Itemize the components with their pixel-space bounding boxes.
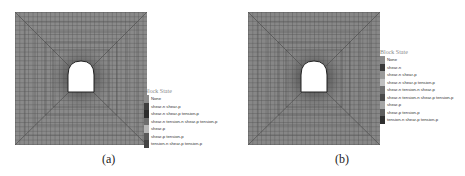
legend-title: Block State — [380, 49, 453, 55]
legend-item: tension-n shear-p tension-p — [380, 116, 453, 124]
legend-swatch — [380, 94, 385, 102]
legend-swatch — [380, 101, 385, 109]
legend-swatch — [380, 116, 385, 124]
legend-swatch — [380, 86, 385, 94]
legend-item: shear-n shear-p — [380, 71, 453, 79]
legend-swatch — [380, 56, 385, 64]
legend-item: None — [380, 56, 453, 64]
legend-item: shear-n shear-p tension-p — [380, 79, 453, 87]
caption-b: (b) — [335, 152, 349, 167]
legend-swatch — [380, 79, 385, 87]
tunnel-opening — [301, 61, 327, 92]
legend-swatch — [380, 109, 385, 117]
legend-swatch — [380, 71, 385, 79]
legend-item: shear-n — [380, 64, 453, 72]
figure-panel-b: Block State None shear-n shear-n shear-p… — [0, 0, 465, 176]
legend-item: shear-n tension-n shear-p tension-p — [380, 94, 453, 102]
legend-swatch — [380, 64, 385, 72]
legend-item: shear-n tension-n shear-p — [380, 86, 453, 94]
tunnel-mesh-graphic — [248, 12, 380, 145]
mesh-plot-b — [248, 12, 380, 145]
legend-item: shear-p tension-p — [380, 109, 453, 117]
legend-b: Block State None shear-n shear-n shear-p… — [380, 49, 453, 124]
legend-item: shear-p — [380, 101, 453, 109]
